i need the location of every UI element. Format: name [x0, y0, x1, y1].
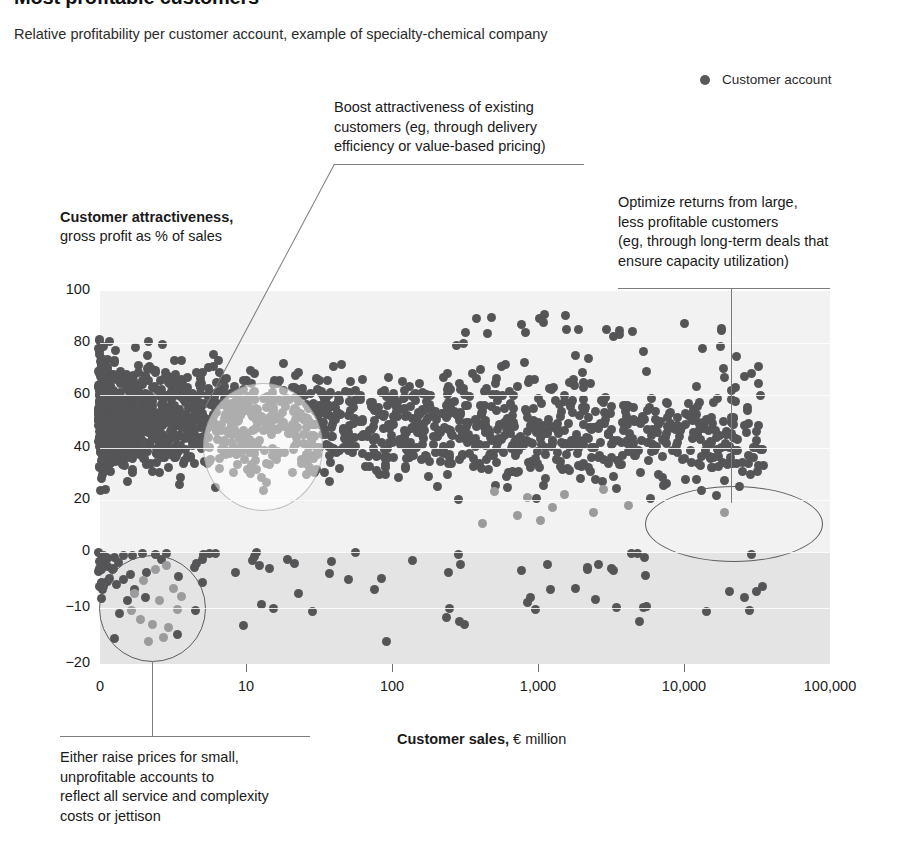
gridline [100, 552, 830, 553]
scatter-point [612, 484, 621, 493]
scatter-point [725, 587, 734, 596]
scatter-point [663, 399, 672, 408]
scatter-point [480, 401, 489, 410]
scatter-point [358, 449, 367, 458]
scatter-point [394, 473, 403, 482]
gridline [100, 500, 830, 501]
scatter-point [708, 419, 717, 428]
scatter-point [631, 451, 640, 460]
scatter-point [408, 556, 417, 565]
scatter-point [294, 589, 303, 598]
scatter-point [460, 620, 469, 629]
scatter-point [95, 407, 104, 416]
scatter-point [469, 454, 478, 463]
scatter-point [513, 511, 522, 520]
scatter-point [754, 379, 763, 388]
scatter-point [183, 373, 192, 382]
scatter-point [584, 354, 593, 363]
scatter-point [103, 355, 112, 364]
scatter-point [456, 385, 465, 394]
scatter-point [255, 561, 264, 570]
scatter-point [328, 432, 337, 441]
scatter-point [231, 568, 240, 577]
scatter-point [564, 419, 573, 428]
scatter-point [329, 362, 338, 371]
x-axis-title-sub: € million [509, 731, 566, 747]
scatter-point [692, 382, 701, 391]
scatter-point [408, 423, 417, 432]
scatter-point [743, 403, 752, 412]
scatter-point [628, 327, 637, 336]
y-tick-label: 60 [48, 385, 90, 401]
x-tick-label: 0 [96, 678, 104, 694]
scatter-point [112, 375, 121, 384]
scatter-point [571, 584, 580, 593]
scatter-point [180, 423, 189, 432]
y-axis-title-sub: gross profit as % of sales [60, 227, 233, 246]
x-tick-label: 100,000 [804, 678, 856, 694]
scatter-point [520, 358, 529, 367]
scatter-point [312, 374, 321, 383]
chart-page: Most profitable customers Relative profi… [0, 0, 907, 843]
scatter-point [381, 463, 390, 472]
scatter-point [719, 364, 728, 373]
scatter-point [745, 606, 754, 615]
scatter-point [346, 377, 355, 386]
scatter-point [740, 372, 749, 381]
scatter-point [607, 425, 616, 434]
scatter-point [561, 311, 570, 320]
scatter-point [758, 445, 767, 454]
y-tick-label: −20 [48, 654, 90, 670]
scatter-point [696, 461, 705, 470]
scatter-point [584, 434, 593, 443]
scatter-point [720, 373, 729, 382]
scatter-point [517, 566, 526, 575]
scatter-point [372, 466, 381, 475]
scatter-point [594, 560, 603, 569]
x-tick-label: 1,000 [520, 678, 556, 694]
annotation-boost: Boost attractiveness of existing custome… [334, 98, 584, 157]
y-tick-label: 20 [48, 490, 90, 506]
scatter-point [478, 519, 487, 528]
annotation-raise-prices-line-0: Either raise prices for small, [60, 748, 320, 768]
scatter-point [477, 464, 486, 473]
scatter-point [622, 412, 631, 421]
scatter-point [556, 412, 565, 421]
highlight-ring-large-customers [645, 486, 823, 562]
annotation-raise-prices-line-1: unprofitable accounts to [60, 768, 320, 788]
scatter-point [123, 477, 132, 486]
scatter-point [150, 420, 159, 429]
scatter-point [101, 485, 110, 494]
scatter-point [180, 456, 189, 465]
scatter-point [158, 340, 167, 349]
scatter-point [578, 368, 587, 377]
scatter-point [673, 448, 682, 457]
scatter-point [406, 448, 415, 457]
scatter-point [621, 401, 630, 410]
scatter-point [754, 362, 763, 371]
scatter-point [572, 430, 581, 439]
gridline [100, 343, 830, 344]
scatter-point [265, 564, 274, 573]
scatter-point [291, 371, 300, 380]
y-tick-label: 0 [48, 542, 90, 558]
scatter-point [464, 430, 473, 439]
scatter-point [344, 575, 353, 584]
scatter-point [389, 420, 398, 429]
scatter-point [539, 318, 548, 327]
scatter-point [759, 461, 768, 470]
annotation-raise-prices-line-3: costs or jettison [60, 807, 320, 827]
scatter-point [148, 467, 157, 476]
page-subtitle: Relative profitability per customer acco… [14, 26, 548, 42]
scatter-point [97, 565, 106, 574]
scatter-point [562, 450, 571, 459]
scatter-point [380, 445, 389, 454]
scatter-point [133, 381, 142, 390]
annotation-optimize: Optimize returns from large, less profit… [618, 193, 848, 271]
x-tick-mark [246, 664, 247, 672]
scatter-point [562, 325, 571, 334]
gridline [100, 448, 830, 449]
annotation-raise-prices-line-2: reflect all service and complexity [60, 787, 320, 807]
scatter-point [642, 367, 651, 376]
scatter-point [483, 329, 492, 338]
